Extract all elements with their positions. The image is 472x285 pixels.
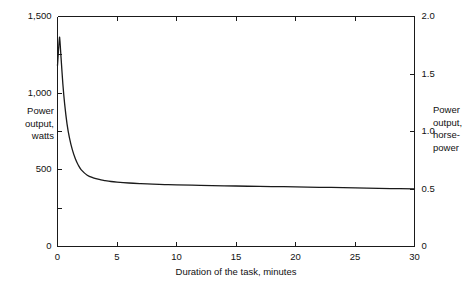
x-tick-label: 15 (216, 251, 256, 262)
y-tick-label-left: 1,500 (6, 10, 52, 21)
y-tick-label-left: 1,000 (6, 87, 52, 98)
x-tick-label: 30 (395, 251, 435, 262)
x-tick-label: 25 (335, 251, 375, 262)
y-tick-label-right: 0.5 (422, 183, 462, 194)
x-tick-label: 5 (97, 251, 137, 262)
x-tick-label: 10 (157, 251, 197, 262)
x-tick-label: 0 (38, 251, 78, 262)
plot-area (0, 0, 472, 285)
y-tick-label-right: 2.0 (422, 10, 462, 21)
x-tick-label: 20 (276, 251, 316, 262)
chart-figure: Power output, watts Power output, horse-… (0, 0, 472, 285)
y-tick-label-left: 0 (6, 240, 52, 251)
y-tick-label-right: 0 (422, 240, 462, 251)
y-tick-label-right: 1.0 (422, 125, 462, 136)
y-tick-label-right: 1.5 (422, 68, 462, 79)
y-tick-label-left: 500 (6, 163, 52, 174)
